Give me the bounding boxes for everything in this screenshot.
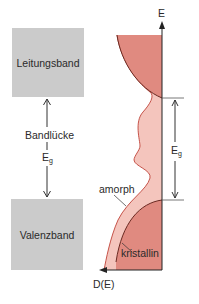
band-gap-label: Bandlücke <box>25 130 74 141</box>
dos-axis-arrowhead <box>99 267 107 273</box>
dos-gap-symbol-sub: g <box>178 150 182 157</box>
dos-gap-symbol-main: E <box>171 144 178 156</box>
dos-axis-label: D(E) <box>93 279 115 290</box>
amorphous-label: amorph <box>99 184 135 195</box>
band-gap-symbol-sub: g <box>49 157 53 164</box>
diagram-graphics <box>0 0 199 304</box>
band-gap-arrow <box>44 99 51 197</box>
band-gap-symbol: Eg <box>42 152 53 164</box>
amorphous-leader-line <box>114 195 126 206</box>
crystalline-label: kristallin <box>121 248 159 259</box>
crystalline-conduction-dos-area <box>117 35 162 98</box>
dos-gap-symbol: Eg <box>171 145 182 157</box>
energy-axis-arrowhead <box>159 21 165 29</box>
band-gap-symbol-main: E <box>42 151 49 163</box>
energy-axis-label: E <box>158 8 165 19</box>
